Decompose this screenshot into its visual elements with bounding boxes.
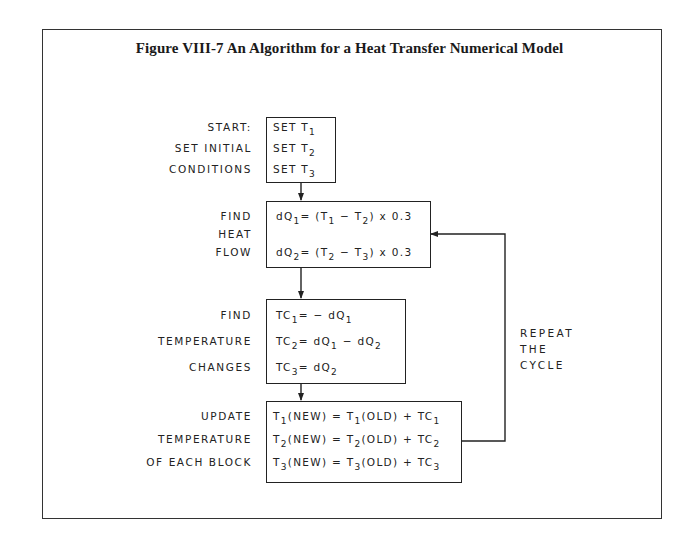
step3-label-3: CHANGES (189, 361, 252, 373)
repeat-cycle-note: REPEAT THE CYCLE (520, 325, 574, 373)
step4-label-1: UPDATE (201, 410, 252, 422)
repeat-note-line-3: CYCLE (520, 357, 574, 373)
step1-label-3: CONDITIONS (169, 163, 252, 175)
step4-line-3: T3(NEW) = T3(OLD) + TC3 (273, 456, 440, 468)
step1-label-1: START: (208, 121, 252, 133)
step2-line-2: dQ2= (T2 − T3) x 0.3 (276, 246, 412, 258)
step1-line-1: SET T1 (273, 121, 316, 133)
step2-label-3: FLOW (215, 246, 252, 258)
step1-line-2: SET T2 (273, 142, 316, 154)
step4-line-2: T2(NEW) = T2(OLD) + TC2 (273, 433, 440, 445)
step4-label-2: TEMPERATURE (158, 433, 252, 445)
step2-label-1: FIND (221, 210, 252, 222)
step3-label-1: FIND (221, 309, 252, 321)
step1-line-3: SET T3 (273, 163, 316, 175)
step2-line-1: dQ1= (T1 − T2) x 0.3 (276, 210, 412, 222)
step3-label-2: TEMPERATURE (158, 335, 252, 347)
step3-line-2: TC2= dQ1 − dQ2 (276, 335, 382, 347)
step3-line-3: TC3= dQ2 (276, 361, 338, 373)
step3-line-1: TC1= − dQ1 (276, 309, 353, 321)
step4-line-1: T1(NEW) = T1(OLD) + TC1 (273, 410, 440, 422)
repeat-note-line-2: THE (520, 341, 574, 357)
step2-label-2: HEAT (218, 228, 252, 240)
step1-label-2: SET INITIAL (175, 142, 252, 154)
step4-label-3: OF EACH BLOCK (146, 456, 252, 468)
repeat-note-line-1: REPEAT (520, 325, 574, 341)
